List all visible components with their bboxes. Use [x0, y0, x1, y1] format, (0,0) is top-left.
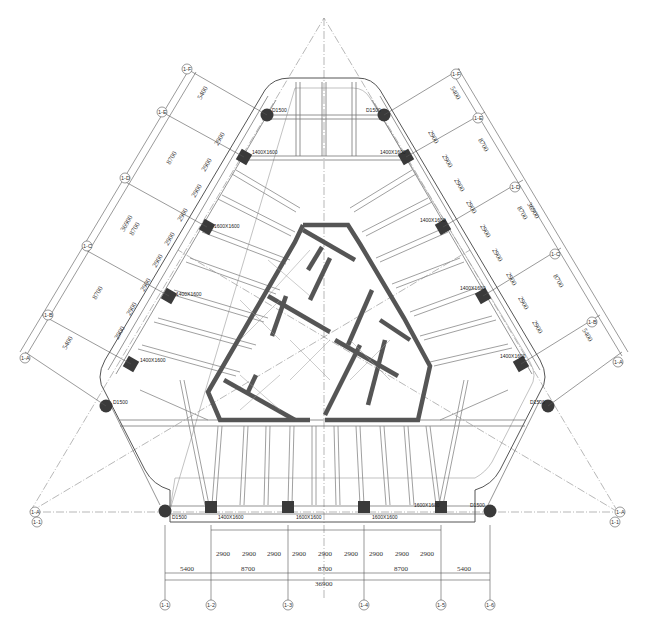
axis-lines [30, 18, 618, 600]
svg-text:1600X1600: 1600X1600 [414, 502, 440, 508]
svg-text:2900: 2900 [267, 550, 282, 558]
svg-text:2900: 2900 [452, 177, 466, 194]
svg-text:8700: 8700 [318, 565, 333, 573]
svg-text:D1500: D1500 [272, 107, 287, 113]
svg-text:1-C: 1-C [83, 243, 92, 249]
svg-text:2900: 2900 [426, 129, 440, 146]
svg-text:2900: 2900 [516, 295, 530, 312]
svg-text:1-A: 1-A [21, 355, 30, 361]
square-column [358, 501, 370, 513]
core-shafts [240, 250, 390, 410]
svg-text:2900: 2900 [213, 130, 227, 147]
svg-text:1-C: 1-C [551, 251, 560, 257]
svg-text:1-E: 1-E [474, 115, 483, 121]
round-columns [100, 109, 555, 518]
bottom-axis-labels: 1-1 1-2 1-3 1-4 1-5 1-6 1-A 1-1 1-A 1-1 [31, 509, 625, 608]
svg-text:2900: 2900 [151, 252, 165, 269]
svg-text:2900: 2900 [478, 223, 492, 240]
bottom-sub-dimensions: 2900 2900 2900 2900 2900 2900 2900 2900 … [216, 550, 435, 558]
svg-text:2900: 2900 [395, 550, 410, 558]
svg-text:5400: 5400 [196, 84, 210, 101]
structural-plan-drawing: D1500 D1500 D1500 D1500 D1500 D1500 1400… [0, 0, 648, 622]
svg-text:8700: 8700 [551, 273, 565, 290]
svg-text:1-1: 1-1 [611, 519, 619, 525]
svg-text:1600X1600: 1600X1600 [372, 514, 398, 520]
svg-text:5400: 5400 [457, 565, 472, 573]
svg-text:8700: 8700 [91, 284, 105, 301]
svg-text:2900: 2900 [139, 276, 153, 293]
svg-text:8700: 8700 [476, 137, 490, 154]
svg-text:D1500: D1500 [530, 399, 545, 405]
svg-text:2900: 2900 [504, 271, 518, 288]
svg-text:1-6: 1-6 [486, 602, 494, 608]
svg-text:5400: 5400 [180, 565, 195, 573]
svg-text:8700: 8700 [241, 565, 256, 573]
svg-text:5400: 5400 [448, 85, 462, 102]
svg-text:1-B: 1-B [588, 319, 597, 325]
svg-text:2900: 2900 [530, 319, 544, 336]
svg-text:2900: 2900 [242, 550, 257, 558]
svg-text:2900: 2900 [440, 153, 454, 170]
left-bay-dimensions: 5400 8700 8700 36900 8700 5400 [61, 84, 210, 351]
svg-text:36900: 36900 [315, 580, 333, 588]
svg-text:1-A: 1-A [616, 509, 625, 515]
svg-text:2900: 2900 [292, 550, 307, 558]
round-column [159, 505, 172, 518]
svg-text:1400X1600: 1400X1600 [218, 514, 244, 520]
svg-text:2900: 2900 [344, 550, 359, 558]
svg-text:1-1: 1-1 [161, 602, 169, 608]
svg-text:5400: 5400 [61, 334, 75, 351]
svg-text:2900: 2900 [125, 300, 139, 317]
svg-text:2900: 2900 [369, 550, 384, 558]
svg-text:1-E: 1-E [158, 109, 167, 115]
left-axis-labels: 1-F 1-E 1-D 1-C 1-B 1-A [21, 66, 192, 361]
svg-text:1-D: 1-D [511, 184, 520, 190]
svg-text:2900: 2900 [200, 156, 214, 173]
round-column [484, 505, 497, 518]
svg-text:D1500: D1500 [172, 514, 187, 520]
svg-text:D1500: D1500 [366, 107, 381, 113]
svg-text:8700: 8700 [165, 149, 179, 166]
svg-text:D1500: D1500 [113, 399, 128, 405]
svg-text:1400X1600: 1400X1600 [500, 353, 526, 359]
svg-text:1-F: 1-F [452, 71, 461, 77]
svg-text:1600X1600: 1600X1600 [296, 514, 322, 520]
bottom-bay-dimensions: 5400 8700 8700 8700 5400 36900 [180, 565, 472, 588]
svg-text:1400X1600: 1400X1600 [460, 285, 486, 291]
svg-text:1-2: 1-2 [207, 602, 215, 608]
square-column [205, 501, 217, 513]
svg-text:5400: 5400 [580, 327, 594, 344]
svg-text:8700: 8700 [394, 565, 409, 573]
svg-text:1-4: 1-4 [360, 602, 368, 608]
svg-text:1-3: 1-3 [284, 602, 292, 608]
svg-text:2900: 2900 [318, 550, 333, 558]
svg-text:1400X1600: 1400X1600 [420, 217, 446, 223]
svg-text:1-F: 1-F [183, 66, 192, 72]
svg-text:1600X1600: 1600X1600 [214, 223, 240, 229]
svg-text:1400X1600: 1400X1600 [140, 357, 166, 363]
svg-text:1-B: 1-B [44, 312, 53, 318]
svg-text:1-A: 1-A [614, 359, 623, 365]
svg-text:D1500: D1500 [470, 502, 485, 508]
svg-text:1-D: 1-D [121, 175, 130, 181]
square-column [282, 501, 294, 513]
svg-text:2900: 2900 [163, 230, 177, 247]
svg-text:2900: 2900 [216, 550, 231, 558]
svg-text:1-1: 1-1 [33, 519, 41, 525]
svg-text:1400X1600: 1400X1600 [252, 149, 278, 155]
svg-text:2900: 2900 [490, 247, 504, 264]
svg-text:2900: 2900 [420, 550, 435, 558]
svg-text:1-5: 1-5 [437, 602, 445, 608]
svg-text:1400X1600: 1400X1600 [176, 291, 202, 297]
column-labels: D1500 D1500 D1500 D1500 D1500 D1500 1400… [113, 107, 545, 520]
svg-text:1400X1600: 1400X1600 [380, 149, 406, 155]
svg-text:1-A: 1-A [31, 509, 40, 515]
bottom-dimension-lines [165, 525, 490, 600]
